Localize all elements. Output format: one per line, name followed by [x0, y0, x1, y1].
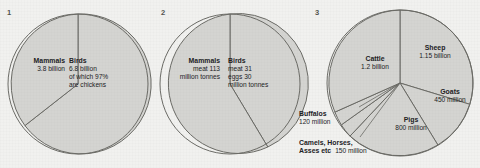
label-pigs-3: Pigs 800 million	[382, 116, 440, 132]
label-sheep-3-title: Sheep	[406, 44, 464, 52]
label-sheep-3-value: 1.15 billion	[406, 52, 464, 60]
label-pigs-3-title: Pigs	[382, 116, 440, 124]
label-pigs-3-value: 800 million	[382, 124, 440, 132]
pie-panel-3: 3 Cattle 1.2 billion Sheep 1.15 billion …	[306, 0, 480, 168]
label-goats-3-title: Goats	[422, 88, 478, 96]
label-cattle-3: Cattle 1.2 billion	[344, 55, 406, 71]
pie-panel-1: 1 Mammals 3.8 billion Birds 6.8 billion …	[0, 0, 156, 168]
label-buffalos-3: Buffalos 120 million	[299, 110, 331, 126]
label-sheep-3: Sheep 1.15 billion	[406, 44, 464, 60]
label-mammals-2-title: Mammals	[158, 57, 220, 65]
label-camels-3-title: Camels, Horses,	[299, 139, 367, 147]
label-mammals-1: Mammals 3.8 billion	[8, 57, 65, 73]
label-mammals-1-title: Mammals	[8, 57, 65, 65]
label-mammals-2: Mammals meat 113 million tonnes	[158, 57, 220, 81]
label-birds-1-value: 6.8 billion	[69, 65, 108, 73]
label-cattle-3-title: Cattle	[344, 55, 406, 63]
label-buffalos-3-title: Buffalos	[299, 110, 331, 118]
label-mammals-1-value: 3.8 billion	[8, 65, 65, 73]
pie-slices-3	[329, 10, 473, 156]
label-birds-2-meat: meat 31	[228, 65, 268, 73]
label-mammals-2-value: meat 113	[158, 65, 220, 73]
label-birds-1: Birds 6.8 billion of which 97% are chick…	[69, 57, 108, 89]
label-camels-3: Camels, Horses, Asses etc150 million	[299, 139, 367, 155]
label-birds-1-note1: of which 97%	[69, 73, 108, 81]
label-birds-1-title: Birds	[69, 57, 108, 65]
label-birds-1-note2: are chickens	[69, 81, 108, 89]
label-goats-3-value: 450 million	[422, 96, 478, 104]
label-birds-2-unit: million tonnes	[228, 81, 268, 89]
label-cattle-3-value: 1.2 billion	[344, 63, 406, 71]
label-buffalos-3-value: 120 million	[299, 118, 331, 126]
label-mammals-2-unit: million tonnes	[158, 73, 220, 81]
label-camels-3-title2: Asses etc	[299, 147, 331, 155]
label-goats-3: Goats 450 million	[422, 88, 478, 104]
pie-panel-2: 2 Mammals meat 113 million tonnes Birds …	[156, 0, 306, 168]
label-birds-2-eggs: eggs 30	[228, 73, 268, 81]
label-camels-3-value: 150 million	[331, 147, 367, 155]
label-birds-2: Birds meat 31 eggs 30 million tonnes	[228, 57, 268, 89]
label-birds-2-title: Birds	[228, 57, 268, 65]
